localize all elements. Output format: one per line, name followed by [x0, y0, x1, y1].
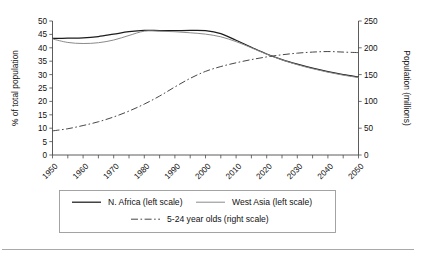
series-line-3	[53, 52, 359, 131]
x-axis-tick-label: 1970	[102, 162, 122, 182]
legend-label-1: N. Africa (left scale)	[108, 197, 183, 207]
x-axis-tick-label: 2050	[346, 162, 366, 182]
left-axis-tick-label: 0	[42, 151, 47, 160]
left-axis-tick-label: 10	[38, 124, 48, 133]
x-axis-tick-label: 2040	[316, 162, 336, 182]
chart-figure: 0510152025303540455005010015020025019501…	[0, 0, 421, 256]
left-axis-tick-label: 5	[42, 138, 47, 147]
axes-group: 0510152025303540455005010015020025019501…	[10, 17, 412, 181]
legend-label-2: West Asia (left scale)	[232, 197, 312, 207]
x-axis-tick-label: 2030	[285, 162, 305, 182]
x-axis-tick-label: 2000	[193, 162, 213, 182]
left-axis-tick-label: 20	[38, 97, 48, 106]
right-axis-tick-label: 50	[364, 124, 374, 133]
left-axis-tick-label: 45	[38, 30, 48, 39]
chart-svg: 0510152025303540455005010015020025019501…	[0, 0, 421, 256]
x-axis-tick-label: 1950	[40, 162, 60, 182]
right-axis-tick-label: 100	[364, 97, 378, 106]
x-axis-tick-label: 1990	[163, 162, 183, 182]
right-axis-tick-label: 200	[364, 44, 378, 53]
left-axis-tick-label: 25	[38, 84, 48, 93]
left-axis-title: % of total population	[10, 50, 20, 126]
left-axis-tick-label: 15	[38, 111, 48, 120]
data-series-group	[53, 30, 359, 131]
left-axis-tick-label: 50	[38, 17, 48, 26]
left-axis-tick-label: 35	[38, 57, 48, 66]
x-axis-tick-label: 2010	[224, 162, 244, 182]
legend: N. Africa (left scale)West Asia (left sc…	[60, 191, 336, 233]
right-axis-title: Population (millions)	[402, 50, 412, 126]
right-axis-tick-label: 250	[364, 17, 378, 26]
series-line-2	[53, 31, 359, 78]
x-axis-tick-label: 1980	[132, 162, 152, 182]
left-axis-tick-label: 30	[38, 71, 48, 80]
right-axis-tick-label: 150	[364, 71, 378, 80]
right-axis-tick-label: 0	[364, 151, 369, 160]
x-axis-tick-label: 2020	[255, 162, 275, 182]
x-axis-tick-label: 1960	[71, 162, 91, 182]
left-axis-tick-label: 40	[38, 44, 48, 53]
legend-label-3: 5-24 year olds (right scale)	[167, 214, 269, 224]
series-line-1	[53, 30, 359, 77]
